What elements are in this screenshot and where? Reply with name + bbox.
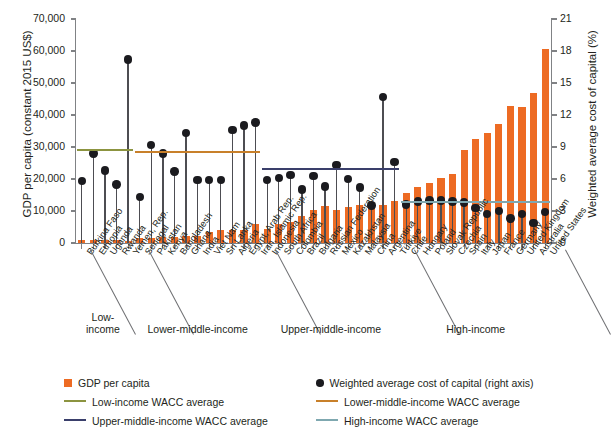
y-tick-label-left: 70,000 [5,12,65,24]
stem [162,153,163,243]
stem [151,145,152,243]
wacc-dot [78,177,86,185]
wacc-dot [112,180,120,188]
x-tick [487,244,488,249]
stem [301,190,302,243]
y-tick-right [552,242,557,243]
legend-label: Weighted average cost of capital (right … [330,377,534,389]
x-tick [394,244,395,249]
wacc-dot [390,158,398,166]
x-tick [162,244,163,249]
legend-label: High-income WACC average [344,415,478,427]
stem [255,122,256,243]
wacc-dot [367,201,375,209]
x-tick [243,244,244,249]
y-tick-label-right: 18 [560,44,600,56]
x-tick [174,244,175,249]
y-tick-right [552,82,557,83]
legend-swatch-line-icon [316,400,338,402]
wacc-dot [309,172,317,180]
y-tick-label-right: 6 [560,172,600,184]
y-tick-label-right: 9 [560,140,600,152]
stem [81,181,82,243]
stem [394,162,395,243]
stem [197,180,198,243]
x-tick [510,244,511,249]
legend-label: Upper-middle-income WACC average [92,415,268,427]
x-tick [93,244,94,249]
legend-swatch-line-icon [64,419,86,421]
y-tick-label-left: 50,000 [5,76,65,88]
legend-swatch-circle-icon [316,379,324,387]
x-tick [220,244,221,249]
x-tick [232,244,233,249]
x-tick [197,244,198,249]
x-tick [533,244,534,249]
x-tick [371,244,372,249]
x-tick [452,244,453,249]
stem [521,214,522,243]
y-tick-label-left: 60,000 [5,44,65,56]
stem [278,178,279,243]
group-separator [414,249,460,334]
stem [232,130,233,243]
stem [174,172,175,243]
x-tick [498,244,499,249]
x-tick [290,244,291,249]
legend-swatch-line-icon [64,400,86,402]
stem [139,197,140,243]
y-tick-label-left: 30,000 [5,140,65,152]
legend-label: GDP per capita [78,377,150,389]
x-tick [417,244,418,249]
stem [452,201,453,243]
stem [104,170,105,243]
legend-label: Low-income WACC average [92,396,224,408]
chart-legend: GDP per capitaWeighted average cost of c… [64,376,604,432]
legend-item-high[interactable]: High-income WACC average [316,414,478,427]
legend-item-lowermid[interactable]: Lower-middle-income WACC average [316,395,520,408]
wacc-dot [136,193,144,201]
stem [116,184,117,243]
y-tick-label-left: 0 [5,236,65,248]
x-tick [128,244,129,249]
stem [243,126,244,243]
group-label: Upper-middle-income [251,323,411,335]
wacc-dot [286,171,294,179]
wacc-dot [124,55,132,63]
wacc-dot [356,183,364,191]
y-tick-right [552,18,557,19]
legend-item-low[interactable]: Low-income WACC average [64,395,224,408]
stem [336,165,337,243]
wacc-dot [275,174,283,182]
plot-area [76,19,552,243]
legend-item-uppermid[interactable]: Upper-middle-income WACC average [64,414,268,427]
wacc-dot [205,176,213,184]
stem [371,206,372,243]
group-label: High-income [396,323,556,335]
wacc-dot [170,167,178,175]
x-tick [325,244,326,249]
x-tick [301,244,302,249]
legend-swatch-line-icon [316,419,338,421]
legend-item-gdp[interactable]: GDP per capita [64,376,150,389]
stem [463,202,464,243]
wacc-dot [251,118,259,126]
wacc-dot [344,175,352,183]
y-tick-right [552,146,557,147]
group-separator [275,249,321,334]
x-tick [267,244,268,249]
wacc-dot [228,126,236,134]
stem [417,201,418,243]
wacc-dot [471,204,479,212]
stem [348,179,349,243]
stem [487,214,488,243]
stem [185,133,186,243]
wacc-dot [506,214,514,222]
x-tick [186,244,187,249]
x-tick [104,244,105,249]
legend-item-wacc[interactable]: Weighted average cost of capital (right … [316,376,534,389]
y-tick-label-right: 0 [560,236,600,248]
x-tick [313,244,314,249]
x-tick [382,244,383,249]
